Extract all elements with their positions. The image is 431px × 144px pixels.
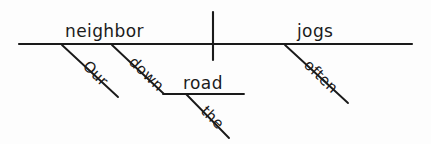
sentence-diagram-canvas: neighbor jogs Our down road the often (0, 0, 431, 144)
word-verb: jogs (296, 21, 333, 41)
diagram-svg: neighbor jogs Our down road the often (0, 0, 431, 144)
word-article: the (197, 102, 228, 133)
word-preposition: down (125, 53, 167, 95)
word-subject: neighbor (65, 21, 144, 41)
word-subject-modifier: Our (79, 57, 112, 90)
word-object-of-preposition: road (183, 73, 223, 93)
